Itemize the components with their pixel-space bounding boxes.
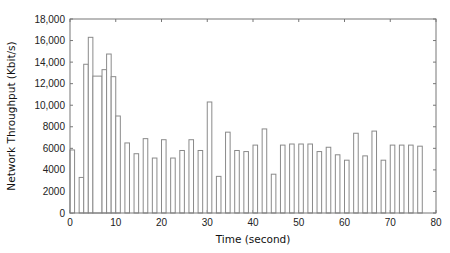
bar bbox=[226, 132, 231, 213]
bar bbox=[93, 76, 102, 213]
x-tick-label: 20 bbox=[156, 217, 168, 228]
bar bbox=[134, 154, 139, 213]
x-tick-label: 70 bbox=[385, 217, 397, 228]
bar bbox=[235, 150, 240, 213]
x-tick-label: 40 bbox=[247, 217, 259, 228]
bar bbox=[107, 54, 112, 213]
y-tick-label: 0 bbox=[59, 208, 65, 219]
bar bbox=[335, 155, 340, 213]
y-tick-label: 10,000 bbox=[34, 100, 65, 111]
x-tick-label: 30 bbox=[202, 217, 214, 228]
x-tick-label: 0 bbox=[67, 217, 73, 228]
bar bbox=[271, 174, 276, 213]
bar bbox=[152, 158, 157, 213]
bar bbox=[171, 158, 176, 213]
bar bbox=[125, 143, 130, 213]
y-tick-label: 6000 bbox=[43, 143, 66, 154]
bar bbox=[244, 152, 249, 213]
bar bbox=[418, 146, 423, 213]
bar bbox=[290, 144, 295, 213]
x-tick-label: 50 bbox=[293, 217, 305, 228]
bar bbox=[409, 145, 414, 213]
bar bbox=[84, 64, 89, 213]
bar bbox=[381, 160, 386, 213]
x-tick-label: 80 bbox=[430, 217, 442, 228]
x-tick-label: 10 bbox=[110, 217, 122, 228]
bar bbox=[79, 177, 84, 213]
bar-series bbox=[70, 37, 422, 213]
bar bbox=[390, 145, 395, 213]
y-tick-label: 2000 bbox=[43, 186, 66, 197]
bar bbox=[111, 77, 116, 213]
x-tick-label: 60 bbox=[339, 217, 351, 228]
bar bbox=[70, 150, 75, 213]
y-axis-title: Network Throughput (Kbit/s) bbox=[5, 41, 17, 190]
bar bbox=[354, 133, 359, 213]
y-tick-label: 4000 bbox=[43, 164, 66, 175]
bar bbox=[262, 129, 267, 213]
bar bbox=[280, 145, 285, 213]
y-tick-label: 8000 bbox=[43, 121, 66, 132]
bar bbox=[143, 139, 148, 213]
y-tick-label: 12,000 bbox=[34, 78, 65, 89]
bar bbox=[308, 144, 313, 213]
bar bbox=[372, 131, 377, 213]
bar bbox=[88, 37, 93, 213]
bar bbox=[299, 144, 304, 213]
throughput-chart: 0200040006000800010,00012,00014,00016,00… bbox=[0, 0, 450, 253]
bar bbox=[317, 152, 322, 213]
bar bbox=[116, 116, 121, 213]
x-axis-title: Time (second) bbox=[215, 233, 291, 245]
bar bbox=[216, 176, 221, 213]
bar bbox=[207, 102, 212, 213]
bar bbox=[326, 147, 331, 213]
bar bbox=[162, 140, 167, 213]
bar bbox=[253, 145, 258, 213]
bar bbox=[345, 160, 350, 213]
y-tick-label: 18,000 bbox=[34, 14, 65, 25]
bar bbox=[399, 145, 404, 213]
y-tick-label: 14,000 bbox=[34, 57, 65, 68]
bar bbox=[198, 150, 203, 213]
bar bbox=[102, 70, 107, 213]
y-tick-label: 16,000 bbox=[34, 35, 65, 46]
bar bbox=[189, 140, 194, 213]
bar bbox=[363, 156, 368, 213]
bar bbox=[180, 150, 185, 213]
